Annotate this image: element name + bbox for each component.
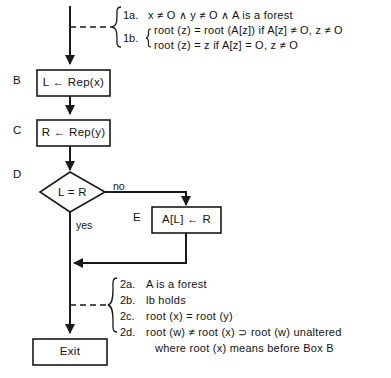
assertion-top-inner-brace [146, 29, 151, 47]
assertion-2a-tag: 2a. [120, 278, 135, 290]
assertion-1a-tag: 1a. [123, 9, 138, 21]
assertion-1b-line-1: root (z) = root (A[z]) if A[z] ≠ O, z ≠ … [154, 24, 343, 36]
step-label-c: C [13, 124, 21, 136]
assertion-2d-continuation: where root (x) means before Box B [155, 342, 334, 354]
assertion-2c-text: root (x) = root (y) [146, 310, 233, 322]
assertion-1a-text: x ≠ O ∧ y ≠ O ∧ A is a forest [148, 9, 293, 22]
exit-box-label: Exit [33, 345, 107, 357]
assertion-bottom-brace [108, 278, 117, 332]
assertion-2b-text: lb holds [146, 294, 186, 306]
assertion-2d-text: root (w) ≠ root (x) ⊃ root (w) unaltered [146, 326, 342, 339]
edge-label-yes: yes [76, 219, 92, 231]
assertion-2d-tag: 2d. [120, 326, 135, 338]
edge-label-no: no [113, 180, 125, 192]
step-label-b: B [13, 74, 21, 86]
assertion-2c-tag: 2c. [120, 310, 135, 322]
step-label-d: D [13, 168, 21, 180]
assertion-2b-tag: 2b. [120, 294, 135, 306]
decision-d-label: L = R [40, 186, 105, 198]
flowchart-diagram: B C D E L ← Rep(x) R ← Rep(y) L = R A[L]… [0, 0, 391, 378]
box-b-label: L ← Rep(x) [37, 76, 110, 88]
assertion-1b-tag: 1b. [123, 32, 138, 44]
edge-no-branch-to-box-e [105, 192, 186, 205]
step-label-e: E [133, 211, 141, 223]
assertion-2a-text: A is a forest [146, 278, 207, 290]
edge-box-e-return-to-spine [74, 233, 186, 263]
box-c-label: R ← Rep(y) [37, 126, 110, 138]
assertion-1b-line-2: root (z) = z if A[z] = O, z ≠ O [154, 39, 298, 51]
box-e-label: A[L] ← R [152, 213, 221, 225]
assertion-top-brace [112, 7, 121, 47]
